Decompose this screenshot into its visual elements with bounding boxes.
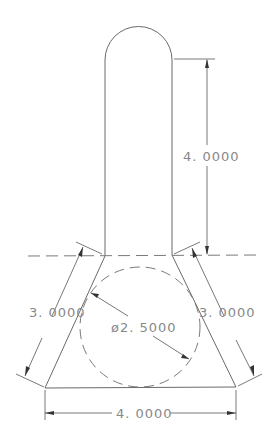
right-side-label: 3. 0000 <box>199 305 256 320</box>
stem-outline <box>105 26 172 256</box>
left-side-dimension: 3. 0000 <box>16 242 102 387</box>
stem-height-label: 4. 0000 <box>183 149 240 164</box>
circle-diameter-label: ø2. 5000 <box>111 320 177 335</box>
technical-drawing: 4. 0000 3. 0000 3. 0000 ø2. 5000 4 <box>0 0 274 448</box>
left-side-label: 3. 0000 <box>29 305 86 320</box>
base-width-label: 4. 0000 <box>116 406 173 421</box>
reference-dashed-line <box>28 255 262 256</box>
base-width-dimension: 4. 0000 <box>45 390 236 421</box>
diameter-dimension: ø2. 5000 <box>91 293 189 359</box>
stem-height-dimension: 4. 0000 <box>174 59 240 255</box>
